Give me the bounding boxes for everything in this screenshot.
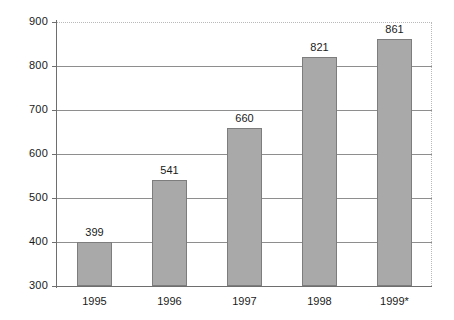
y-axis-label-600: 600 bbox=[8, 147, 48, 159]
x-axis-label-1999*: 1999* bbox=[365, 295, 425, 307]
bar-value-1996: 541 bbox=[140, 164, 200, 176]
x-axis-label-1997: 1997 bbox=[215, 295, 275, 307]
gridline-800 bbox=[57, 66, 432, 67]
bar-value-1999*: 861 bbox=[365, 23, 425, 35]
bar-value-1995: 399 bbox=[65, 226, 125, 238]
x-axis-label-1996: 1996 bbox=[140, 295, 200, 307]
y-axis-label-700: 700 bbox=[8, 103, 48, 115]
bar-value-1997: 660 bbox=[215, 112, 275, 124]
bar-chart: 900800700600500400300 399541660821861 19… bbox=[0, 0, 454, 320]
y-axis-label-900: 900 bbox=[8, 15, 48, 27]
y-axis-label-800: 800 bbox=[8, 59, 48, 71]
y-axis-label-500: 500 bbox=[8, 191, 48, 203]
x-axis-label-1995: 1995 bbox=[65, 295, 125, 307]
bar-1995[interactable] bbox=[77, 242, 112, 286]
bar-1999*[interactable] bbox=[377, 39, 412, 286]
gridline-300 bbox=[57, 286, 432, 287]
y-axis-label-400: 400 bbox=[8, 235, 48, 247]
y-axis-label-300: 300 bbox=[8, 279, 48, 291]
bar-value-1998: 821 bbox=[290, 41, 350, 53]
bar-1997[interactable] bbox=[227, 128, 262, 286]
bar-1998[interactable] bbox=[302, 57, 337, 286]
bar-1996[interactable] bbox=[152, 180, 187, 286]
plot-area bbox=[57, 22, 432, 286]
x-axis-label-1998: 1998 bbox=[290, 295, 350, 307]
